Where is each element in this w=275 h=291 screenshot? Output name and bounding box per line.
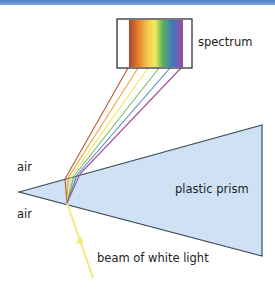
spectrum-band	[129, 20, 183, 67]
spectrum-label: spectrum	[198, 35, 252, 49]
beam-label: beam of white light	[97, 251, 209, 265]
air-label-bottom: air	[17, 207, 32, 221]
air-label-top: air	[17, 160, 32, 174]
beam-arrow-icon	[76, 235, 84, 244]
prism-label: plastic prism	[175, 182, 249, 196]
